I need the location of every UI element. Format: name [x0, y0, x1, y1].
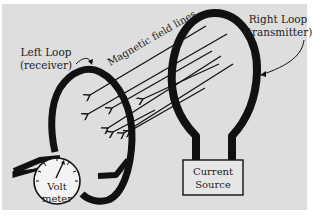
current-source: Current Source: [183, 160, 243, 195]
inductive-coupling-diagram: Volt meter Current Source Left Loop (rec…: [0, 0, 313, 217]
current-source-label-2: Source: [195, 179, 231, 190]
volt-meter: Volt meter: [34, 158, 80, 204]
volt-meter-label-1: Volt: [46, 181, 67, 192]
right-loop-label-2: (transmitter): [244, 26, 313, 38]
left-loop-label-2: (receiver): [20, 59, 72, 71]
volt-meter-label-2: meter: [42, 193, 72, 204]
diagram-frame: Volt meter Current Source Left Loop (rec…: [0, 0, 313, 217]
current-source-label-1: Current: [193, 166, 233, 177]
right-loop-pointer-arrow: [261, 40, 304, 75]
left-loop-label-1: Left Loop: [21, 46, 72, 58]
right-loop-label-1: Right Loop: [249, 13, 308, 25]
